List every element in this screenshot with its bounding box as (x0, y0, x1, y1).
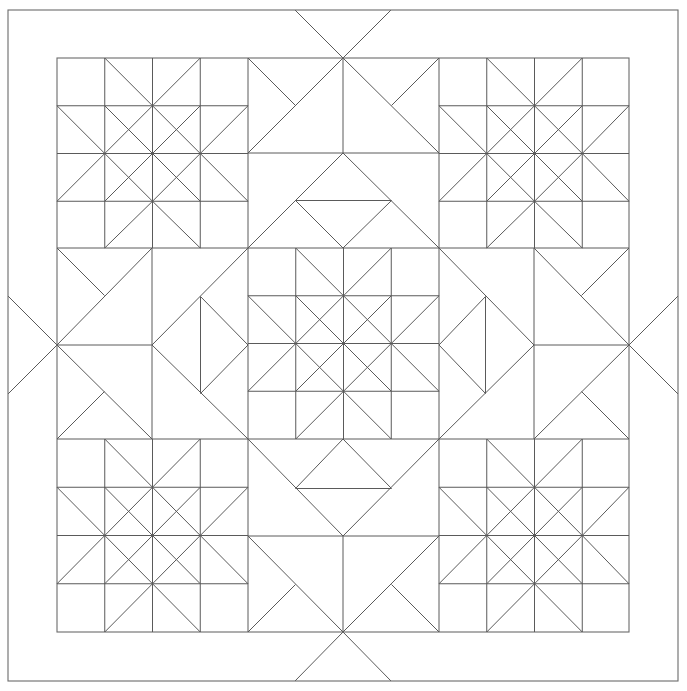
quilt-pattern-svg (0, 0, 687, 691)
quilt-diagram-container (0, 0, 687, 691)
